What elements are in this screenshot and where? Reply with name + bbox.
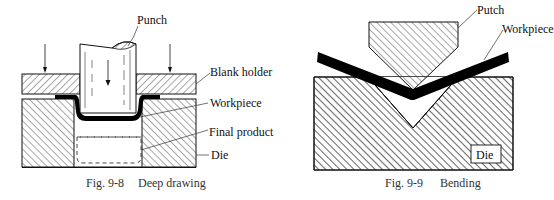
- label-die: Die: [211, 148, 228, 162]
- figure-deep-drawing: Punch Blank holder Workpiece Final produ…: [22, 13, 274, 190]
- caption-title: Bending: [440, 176, 481, 190]
- label-workpiece: Workpiece: [210, 96, 262, 110]
- label-blank-holder: Blank holder: [210, 65, 272, 79]
- final-product-outline: [77, 137, 141, 163]
- label-final-product: Final product: [209, 125, 274, 139]
- label-die: Die: [476, 148, 493, 162]
- caption-title: Deep drawing: [138, 176, 206, 190]
- leader-lines: [458, 10, 503, 60]
- label-workpiece: Workpiece: [502, 22, 554, 36]
- diagram-canvas: Punch Blank holder Workpiece Final produ…: [0, 0, 554, 200]
- caption-number: Fig. 9-9: [385, 176, 423, 190]
- force-arrow-right: [168, 44, 172, 73]
- punch: [80, 42, 136, 113]
- label-punch: Putch: [477, 3, 504, 17]
- label-punch: Punch: [137, 13, 167, 27]
- force-arrow-left: [43, 44, 47, 73]
- figure-bending: Die Putch Workpiece Fig. 9-9 Bending: [314, 3, 554, 190]
- caption-number: Fig. 9-8: [86, 176, 124, 190]
